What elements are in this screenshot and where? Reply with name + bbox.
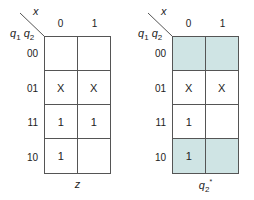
cell-10-1-shaded [206,139,239,173]
cell-10-0-shaded: 1 [173,139,206,173]
cell-10-0: 1 [45,139,78,173]
function-label-q2-star: q2* [172,178,239,194]
cell-11-0: 1 [45,105,78,139]
column-variable-x: x [33,5,39,17]
cell-11-1: 1 [78,105,111,139]
cell-00-0 [45,37,78,71]
row-header-10: 10 [142,152,166,163]
row-header-10: 10 [14,152,38,163]
cell-01-1: X [206,71,239,105]
cell-01-1: X [78,71,111,105]
cell-01-0: X [173,71,206,105]
cell-11-1 [206,105,239,139]
row-header-01: 01 [14,83,38,94]
cell-00-1 [78,37,111,71]
column-variable-x: x [161,5,167,17]
row-variables-q1-q2: q1 q2 [10,27,34,42]
column-header-0: 0 [44,18,77,29]
kmap-grid: X X 1 1 1 [44,36,111,174]
row-header-11: 11 [142,117,166,128]
row-header-00: 00 [14,48,38,59]
row-variables-q1-q2: q1 q2 [138,27,162,42]
cell-01-0: X [45,71,78,105]
cell-00-0-shaded [173,37,206,71]
cell-10-1 [78,139,111,173]
column-header-1: 1 [206,18,239,29]
column-header-1: 1 [78,18,111,29]
function-label-z: z [44,178,111,190]
row-header-11: 11 [14,117,38,128]
kmap-z: x q1 q2 0 1 00 01 11 10 X X 1 1 1 z [0,0,127,200]
row-header-01: 01 [142,83,166,94]
row-header-00: 00 [142,48,166,59]
cell-11-0: 1 [173,105,206,139]
cell-00-1-shaded [206,37,239,71]
kmap-q2-star: x q1 q2 0 1 00 01 11 10 X X 1 1 q2* [127,0,254,200]
column-header-0: 0 [172,18,205,29]
kmap-grid: X X 1 1 [172,36,239,174]
